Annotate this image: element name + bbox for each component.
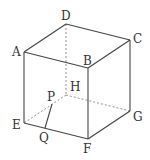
- edge-HE: [24, 95, 66, 123]
- edge-AB: [24, 52, 88, 68]
- edge-BC: [88, 40, 130, 68]
- label-P: P: [47, 91, 55, 103]
- edge-DA: [24, 24, 66, 52]
- label-B: B: [83, 55, 92, 67]
- label-C: C: [133, 33, 142, 45]
- label-F: F: [83, 143, 91, 155]
- label-A: A: [12, 46, 21, 58]
- label-Q: Q: [39, 132, 49, 144]
- edge-CD: [66, 24, 130, 40]
- edge-HG: [66, 95, 130, 111]
- segment-PQ: [45, 104, 52, 128]
- label-H: H: [70, 81, 80, 93]
- label-E: E: [12, 119, 21, 131]
- edge-EF: [24, 123, 88, 139]
- edge-FG: [88, 111, 130, 139]
- label-D: D: [61, 10, 71, 22]
- label-G: G: [133, 111, 143, 123]
